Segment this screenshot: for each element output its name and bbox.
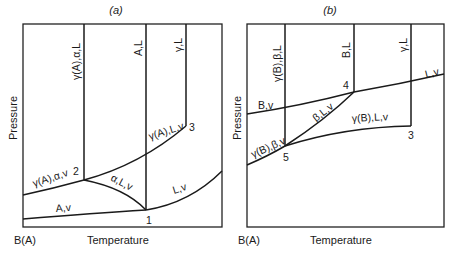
phase-diagrams: (a) γ(A),α,L A,L γ,L γ(A),L,v γ(A),α,v α… [0, 0, 452, 256]
y-axis-label: Pressure [7, 96, 19, 140]
point-4: 4 [343, 79, 349, 91]
label-l-v: L,v [171, 180, 189, 196]
y-axis-label: Pressure [231, 96, 243, 140]
label-b-v: B,v [258, 99, 274, 111]
label-gamma-a-alpha-l: γ(A),α,L [70, 43, 82, 80]
origin-label: B(A) [238, 234, 260, 246]
label-gamma-a-l-v: γ(A),L,v [147, 119, 186, 142]
label-b-l: B,L [340, 42, 352, 58]
label-gamma-b-beta-l: γ(B),β,L [271, 45, 283, 82]
label-beta-l-v: β,L,v [310, 100, 336, 124]
label-l-v: L,v [424, 65, 441, 80]
panel-b: (b) γ(B),β,L B,L γ,L L,v B,v β,L,v γ(B),… [231, 4, 444, 246]
label-gamma-l: γ,L [172, 38, 184, 52]
point-2: 2 [73, 165, 79, 177]
label-alpha-l-v: α,L,v [109, 171, 136, 193]
point-3: 3 [189, 121, 195, 133]
origin-label: B(A) [14, 234, 36, 246]
label-gamma-b-l-v: γ(B),L,v [351, 110, 388, 124]
curve-gamma-b-l-v [285, 126, 411, 146]
point-3: 3 [408, 129, 414, 141]
point-5: 5 [283, 151, 289, 163]
panel-b-title: (b) [323, 4, 337, 16]
label-gamma-l: γ,L [397, 38, 409, 52]
x-axis-label: Temperature [87, 234, 149, 246]
point-1: 1 [146, 214, 152, 226]
curve-a-v [23, 210, 146, 219]
label-a-l: A,L [132, 40, 144, 56]
label-a-v: A,v [55, 201, 72, 214]
panel-a-title: (a) [109, 4, 123, 16]
x-axis-label: Temperature [310, 234, 372, 246]
panel-a: (a) γ(A),α,L A,L γ,L γ(A),L,v γ(A),α,v α… [7, 4, 222, 246]
